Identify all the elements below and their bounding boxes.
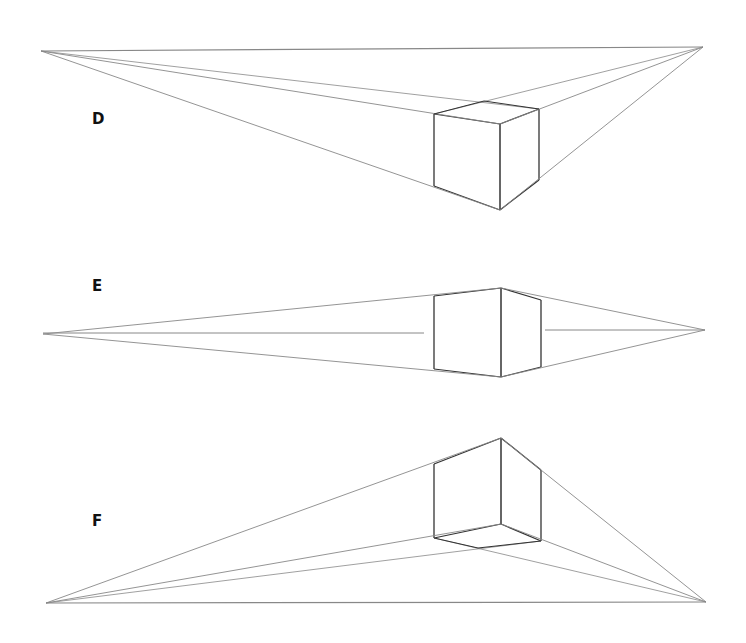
box-back-edge — [434, 101, 484, 114]
vp-line — [501, 524, 706, 602]
panel-label-e: E — [92, 277, 102, 295]
vp-line — [500, 47, 703, 210]
vp-line — [41, 51, 500, 124]
vp-line — [41, 51, 539, 109]
vp-line — [43, 334, 501, 377]
horizon-line — [46, 602, 706, 603]
vp-line — [46, 524, 501, 603]
box-back-edge — [478, 541, 541, 548]
vp-line — [43, 288, 501, 334]
box-back-edge — [484, 101, 539, 109]
vp-line — [46, 541, 541, 603]
box-top-right — [501, 288, 541, 300]
box-back-edge — [434, 538, 478, 548]
perspective-diagram — [0, 0, 746, 643]
vp-line — [501, 438, 706, 602]
vp-line — [500, 47, 703, 124]
vp-line — [46, 438, 501, 603]
horizon-line — [41, 47, 703, 51]
vp-line — [41, 51, 500, 210]
panel-label-f: F — [92, 512, 102, 530]
panel-label-d: D — [92, 110, 104, 128]
vp-line — [501, 330, 705, 377]
vp-line — [501, 288, 705, 330]
